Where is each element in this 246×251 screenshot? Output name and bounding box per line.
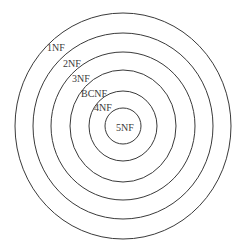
label-3nf: 3NF	[72, 73, 90, 84]
label-1nf: 1NF	[47, 42, 65, 53]
normal-forms-diagram: 1NF 2NF 3NF BCNF 4NF 5NF	[0, 0, 246, 251]
labels-group: 1NF 2NF 3NF BCNF 4NF 5NF	[47, 42, 134, 133]
label-5nf: 5NF	[116, 122, 134, 133]
label-4nf: 4NF	[94, 102, 112, 113]
label-2nf: 2NF	[63, 58, 81, 69]
label-bcnf: BCNF	[81, 88, 108, 99]
